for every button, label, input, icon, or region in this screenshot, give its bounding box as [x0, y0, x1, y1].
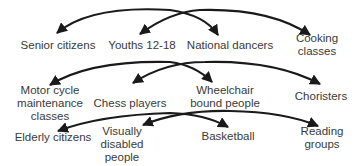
node-label-line: Youths 12-18: [108, 39, 175, 52]
arc-motor-wheelchair: [50, 62, 212, 85]
node-label-line: National dancers: [187, 39, 273, 52]
node-elderly: Elderly citizens: [15, 131, 92, 144]
node-youths: Youths 12-18: [108, 39, 175, 52]
arc-chess-choristers: [133, 62, 320, 84]
node-visually: Visuallydisabledpeople: [101, 125, 144, 164]
node-label-line: bound people: [190, 97, 260, 110]
node-label-line: disabled: [101, 138, 144, 151]
arc-senior-dancers: [57, 9, 218, 35]
node-label-line: maintenance: [17, 97, 83, 110]
node-label-line: classes: [17, 110, 83, 123]
node-basketball: Basketball: [201, 130, 254, 143]
node-senior: Senior citizens: [21, 39, 96, 52]
node-choristers: Choristers: [295, 90, 347, 103]
node-dancers: National dancers: [187, 39, 273, 52]
node-label-line: Choristers: [295, 90, 347, 103]
node-label-line: Chess players: [94, 97, 167, 110]
node-reading: Readinggroups: [301, 125, 344, 151]
arc-youths-cooking: [140, 10, 310, 35]
node-label-line: Motor cycle: [17, 84, 83, 97]
node-label-line: people: [101, 151, 144, 164]
node-wheelchair: Wheelchairbound people: [190, 84, 260, 110]
node-label-line: Cooking: [296, 32, 338, 45]
node-chess: Chess players: [94, 97, 167, 110]
node-label-line: Basketball: [201, 130, 254, 143]
node-label-line: classes: [296, 45, 338, 58]
node-label-line: Elderly citizens: [15, 131, 92, 144]
node-label-line: Wheelchair: [190, 84, 260, 97]
node-label-line: Senior citizens: [21, 39, 96, 52]
node-motor: Motor cyclemaintenanceclasses: [17, 84, 83, 123]
node-label-line: Visually: [101, 125, 144, 138]
node-label-line: groups: [301, 138, 344, 151]
node-cooking: Cookingclasses: [296, 32, 338, 58]
node-label-line: Reading: [301, 125, 344, 138]
